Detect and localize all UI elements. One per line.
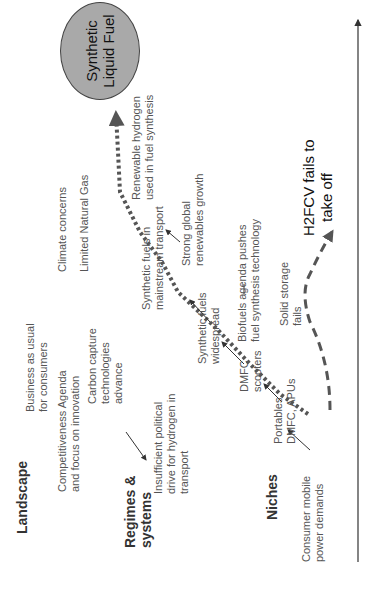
text-line: Renewable hydrogen [130, 95, 143, 200]
text-line: Insufficient political [152, 394, 165, 494]
synthetic-liquid-fuel-goal: Synthetic Liquid Fuel [60, 2, 140, 100]
text-line: Synthetic fuels [196, 292, 209, 364]
text-line: take off [318, 139, 336, 236]
text-line: power demands [313, 476, 326, 562]
business-as-usual: Business as usual for consumers [24, 323, 50, 412]
goal-line1: Synthetic [83, 14, 100, 87]
text-line: advance [112, 328, 125, 404]
text-line: Consumer mobile [300, 476, 313, 562]
h2fcv-fails: H2FCV fails to take off [300, 139, 336, 236]
text-line: Carbon capture [86, 328, 99, 404]
dmfc-scooters: DMFC scooters [238, 350, 264, 392]
text-line: renewables growth [193, 174, 206, 266]
text-line: used in fuel synthesis [143, 95, 156, 200]
consumer-mobile-power: Consumer mobile power demands [300, 476, 326, 562]
text-line: transport [178, 394, 191, 494]
text-line: fuel synthesis technology [249, 219, 262, 342]
text-line: mainstream transport [153, 206, 166, 310]
biofuels-agenda: Biofuels agenda pushes fuel synthesis te… [236, 219, 262, 342]
dashed-h2fcv-path [305, 232, 332, 410]
portables-dmfc-apus: Portables, DMFC, APUs [272, 379, 298, 444]
synthetic-fuels-widespread: Synthetic fuels widespread [196, 292, 222, 364]
arrow-renewables [166, 230, 180, 242]
goal-line2: Liquid Fuel [100, 14, 117, 87]
text-line: Strong global [180, 174, 193, 266]
competitiveness-agenda: Competitiveness Agenda and focus on inno… [56, 370, 82, 492]
level-niches: Niches [264, 474, 280, 520]
insufficient-political-drive: Insufficient political drive for hydroge… [152, 394, 191, 494]
carbon-capture: Carbon capture technologies advance [86, 328, 125, 404]
renewable-hydrogen: Renewable hydrogen used in fuel synthesi… [130, 95, 156, 200]
text-line: Competitiveness Agenda [56, 370, 69, 492]
text-line: and focus on innovation [69, 370, 82, 492]
text-line: Synthetic fuels in [140, 206, 153, 310]
synthetic-fuels-mainstream: Synthetic fuels in mainstream transport [140, 206, 166, 310]
limited-natural-gas: Limited Natural Gas [78, 175, 91, 272]
transition-pathway-diagram: Landscape Regimes & systems Niches Compe… [0, 0, 376, 592]
solid-storage-fails: Solid storage fails [278, 262, 304, 326]
level-regimes-line1: Regimes & [122, 476, 138, 548]
text-line: widespread [209, 292, 222, 364]
level-regimes: Regimes & systems [122, 476, 154, 548]
text-line: Biofuels agenda pushes [236, 219, 249, 342]
renewables-growth: Strong global renewables growth [180, 174, 206, 266]
text-line: drive for hydrogen in [165, 394, 178, 494]
text-line: Business as usual [24, 323, 37, 412]
text-line: scooters [251, 350, 264, 392]
text-line: fails [291, 262, 304, 326]
text-line: technologies [99, 328, 112, 404]
climate-concerns: Climate concerns [56, 187, 69, 272]
text-line: for consumers [37, 323, 50, 412]
arrow-political [126, 432, 146, 460]
text-line: Portables, [272, 379, 285, 444]
text-line: Solid storage [278, 262, 291, 326]
text-line: H2FCV fails to [300, 139, 318, 236]
text-line: DMFC, APUs [285, 379, 298, 444]
text-line: DMFC [238, 350, 251, 392]
level-landscape: Landscape [14, 461, 30, 534]
